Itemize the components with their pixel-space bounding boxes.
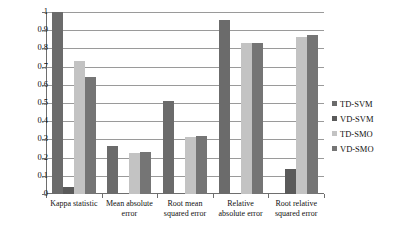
y-axis-tick-mark [42,194,46,195]
legend-item-label: TD-SMO [340,129,373,139]
legend-item-label: VD-SVM [340,114,374,124]
y-axis-tick-mark [42,30,46,31]
bar [163,101,174,194]
bar [129,153,140,194]
x-axis-tick-mark [213,194,214,198]
bar-group [102,12,158,194]
bar [74,61,85,194]
legend: TD-SVMVD-SVMTD-SMOVD-SMO [332,96,398,156]
x-axis-tick-label: Kappa statistic [46,199,102,219]
bar [85,77,96,194]
bar [307,35,318,194]
y-axis-tick-mark [42,121,46,122]
bar [285,169,296,194]
bar-group [157,12,213,194]
bar-chart: Kappa statisticMean absolute errorRoot m… [0,0,400,250]
bar [185,137,196,194]
bar [296,37,307,194]
y-axis-tick-mark [42,85,46,86]
bar-group [268,12,324,194]
y-axis-tick-mark [42,12,46,13]
legend-item[interactable]: TD-SMO [332,126,398,141]
y-axis-tick-mark [42,103,46,104]
legend-swatch-icon [332,146,337,151]
bar [107,146,118,194]
bar-groups [46,12,324,194]
legend-item-label: TD-SVM [340,99,373,109]
x-axis-tick-label: Relative absolute error [213,199,269,219]
legend-swatch-icon [332,116,337,121]
x-axis-tick-label: Mean absolute error [102,199,158,219]
x-axis-tick-mark [324,194,325,198]
y-axis-tick-mark [42,176,46,177]
x-axis-tick-label: Root mean squared error [157,199,213,219]
legend-item[interactable]: VD-SMO [332,141,398,156]
bar [140,152,151,194]
x-axis-tick-mark [102,194,103,198]
y-axis-tick-mark [42,67,46,68]
legend-item-label: VD-SMO [340,144,374,154]
y-axis-tick-mark [42,139,46,140]
bar [52,12,63,194]
bar [252,43,263,194]
y-axis-tick-mark [42,48,46,49]
legend-item[interactable]: TD-SVM [332,96,398,111]
bar [196,136,207,194]
x-axis-tick-mark [268,194,269,198]
bar-group [46,12,102,194]
bar-group [213,12,269,194]
x-axis-tick-label: Root relative squared error [268,199,324,219]
legend-swatch-icon [332,131,337,136]
x-axis-labels: Kappa statisticMean absolute errorRoot m… [46,199,324,219]
bar [241,43,252,194]
y-axis-tick-mark [42,158,46,159]
bar [219,20,230,194]
legend-item[interactable]: VD-SVM [332,111,398,126]
legend-swatch-icon [332,101,337,106]
bar [63,187,74,194]
x-axis-tick-mark [157,194,158,198]
